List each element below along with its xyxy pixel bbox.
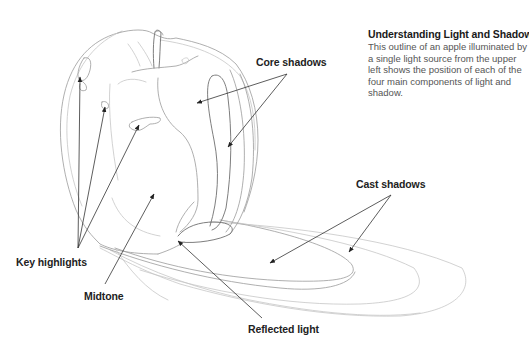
arrow-key-highlights-3 xyxy=(78,125,139,248)
caption-block: Understanding Light and Shadow This outl… xyxy=(368,28,528,99)
label-core-shadows: Core shadows xyxy=(256,56,327,68)
arrow-cast-shadows-2 xyxy=(349,195,391,252)
arrow-core-shadows-2 xyxy=(228,74,287,147)
apple-light-shadow-diagram: Core shadowsKey highlightsMidtoneReflect… xyxy=(0,0,529,354)
label-midtone: Midtone xyxy=(84,290,124,302)
label-key-highlights: Key highlights xyxy=(16,256,87,268)
label-reflected-light: Reflected light xyxy=(248,323,319,335)
arrow-reflected-light-1 xyxy=(178,241,262,318)
arrow-cast-shadows-1 xyxy=(270,195,391,263)
leader-arrows xyxy=(78,74,391,318)
caption-title: Understanding Light and Shadow xyxy=(368,28,528,40)
arrow-key-highlights-1 xyxy=(78,77,80,248)
caption-body: This outline of an apple illuminated by … xyxy=(368,41,528,99)
arrow-key-highlights-2 xyxy=(78,107,105,248)
label-cast-shadows: Cast shadows xyxy=(356,178,425,190)
cast-shadow-outline xyxy=(100,220,466,316)
